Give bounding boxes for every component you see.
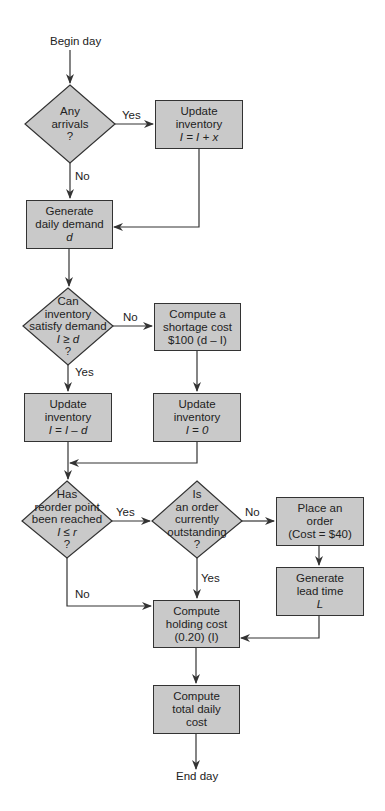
edge-label-outstanding-yes: Yes — [201, 572, 220, 584]
process-generate-lead-time: Generate lead time L — [276, 567, 364, 616]
decision-arrivals: Any arrivals ? — [25, 85, 115, 163]
decision-line: an order — [176, 501, 219, 514]
edge-label-arrivals-yes: Yes — [122, 109, 141, 121]
start-terminal: Begin day — [50, 35, 101, 47]
process-line: Generate — [296, 572, 344, 585]
process-formula: $100 (d – I) — [168, 334, 227, 347]
edge-label-satisfy-yes: Yes — [75, 366, 94, 378]
process-update-inventory-subtract: Update inventory I = I – d — [24, 393, 112, 442]
process-line: cost — [186, 716, 207, 729]
process-place-order: Place an order (Cost = $40) — [276, 497, 364, 546]
process-formula: (0.20) (I) — [174, 631, 218, 644]
decision-line: ? — [64, 538, 70, 551]
process-formula: L — [317, 598, 323, 611]
decision-line: been reached — [32, 513, 102, 526]
decision-line: ? — [194, 538, 200, 551]
process-update-inventory-zero: Update inventory I = 0 — [153, 393, 241, 442]
process-holding-cost: Compute holding cost (0.20) (I) — [153, 600, 240, 648]
process-line: Generate — [46, 205, 94, 218]
process-shortage-cost: Compute a shortage cost $100 (d – I) — [154, 303, 241, 351]
process-line: holding cost — [166, 618, 227, 631]
decision-line: Is — [193, 488, 202, 501]
process-update-inventory-arrival: Update inventory I = I + x — [155, 100, 243, 149]
decision-condition: I ≥ d — [57, 333, 79, 346]
process-line: Compute — [173, 690, 220, 703]
process-line: Compute — [173, 605, 220, 618]
process-line: (Cost = $40) — [288, 528, 352, 541]
edge-label-satisfy-no: No — [123, 311, 138, 323]
process-line: Update inventory — [154, 398, 240, 424]
decision-line: ? — [65, 345, 71, 358]
process-formula: I = I + x — [180, 131, 218, 144]
decision-line: satisfy demand — [29, 320, 106, 333]
process-line: Update inventory — [25, 398, 111, 424]
process-formula: I = 0 — [186, 424, 209, 437]
edge-label-outstanding-no: No — [245, 506, 260, 518]
process-total-daily-cost: Compute total daily cost — [153, 685, 240, 734]
process-generate-demand: Generate daily demand d — [26, 200, 113, 249]
decision-line: Can — [57, 295, 78, 308]
decision-line: currently — [175, 513, 219, 526]
process-formula: I = I – d — [49, 424, 88, 437]
decision-satisfy-demand: Can inventory satisfy demand I ≥ d ? — [18, 288, 118, 365]
decision-line: reorder point — [34, 501, 99, 514]
process-line: total daily — [172, 703, 221, 716]
process-line: Place an — [298, 502, 343, 515]
decision-line: arrivals — [51, 118, 88, 131]
process-line: daily demand — [35, 218, 103, 231]
edge-label-arrivals-no: No — [75, 170, 90, 182]
process-formula: d — [66, 231, 72, 244]
decision-condition: I ≤ r — [57, 526, 77, 539]
process-line: shortage cost — [163, 321, 232, 334]
process-line: Update inventory — [156, 105, 242, 131]
decision-line: Has — [57, 488, 77, 501]
end-terminal: End day — [176, 770, 218, 782]
edge-label-reorder-no: No — [75, 588, 90, 600]
decision-line: Any — [60, 105, 80, 118]
edge-label-reorder-yes: Yes — [116, 506, 135, 518]
decision-order-outstanding: Is an order currently outstanding ? — [147, 481, 247, 558]
decision-reorder-point: Has reorder point been reached I ≤ r ? — [17, 481, 117, 558]
decision-line: outstanding — [167, 526, 226, 539]
process-line: Compute a — [169, 308, 225, 321]
process-line: order — [307, 515, 334, 528]
decision-line: ? — [67, 130, 73, 143]
process-line: lead time — [297, 585, 344, 598]
decision-line: inventory — [45, 308, 92, 321]
